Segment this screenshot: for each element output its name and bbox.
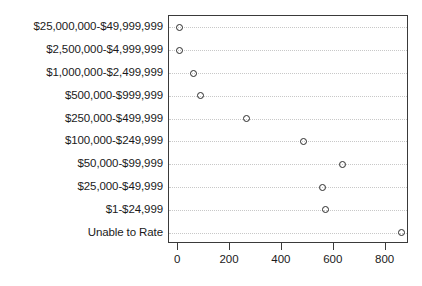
category-axis-labels: $25,000,000-$49,999,999$2,500,000-$4,999… <box>0 15 163 243</box>
x-tick-4 <box>385 243 386 250</box>
plot-area <box>168 15 408 243</box>
dot-plot-chart: $25,000,000-$49,999,999$2,500,000-$4,999… <box>0 0 422 286</box>
category-label-9: Unable to Rate <box>88 226 163 238</box>
data-point-1[interactable] <box>176 47 183 54</box>
gridline-7 <box>169 187 407 188</box>
category-label-0: $25,000,000-$49,999,999 <box>34 20 163 32</box>
category-label-8: $1-$24,999 <box>106 203 163 215</box>
data-point-4[interactable] <box>243 115 250 122</box>
x-axis: 0200400600800 <box>168 243 408 286</box>
data-point-7[interactable] <box>319 184 326 191</box>
data-point-2[interactable] <box>190 70 197 77</box>
data-point-3[interactable] <box>197 92 204 99</box>
data-point-0[interactable] <box>176 24 183 31</box>
gridline-6 <box>169 164 407 165</box>
x-tick-label-3: 600 <box>323 253 342 266</box>
x-tick-2 <box>281 243 282 250</box>
x-tick-label-0: 0 <box>174 253 180 266</box>
gridline-1 <box>169 50 407 51</box>
x-tick-label-4: 800 <box>375 253 394 266</box>
gridline-0 <box>169 27 407 28</box>
category-label-1: $2,500,000-$4,999,999 <box>46 43 163 55</box>
gridline-3 <box>169 96 407 97</box>
category-label-5: $100,000-$249,999 <box>65 134 163 146</box>
gridline-5 <box>169 141 407 142</box>
plot-inner <box>169 16 407 242</box>
category-label-3: $500,000-$999,999 <box>65 89 163 101</box>
category-label-7: $25,000-$49,999 <box>78 180 163 192</box>
x-tick-3 <box>333 243 334 250</box>
data-point-8[interactable] <box>322 206 329 213</box>
x-tick-0 <box>177 243 178 250</box>
gridline-8 <box>169 210 407 211</box>
data-point-6[interactable] <box>339 161 346 168</box>
category-label-6: $50,000-$99,999 <box>78 157 163 169</box>
gridline-4 <box>169 119 407 120</box>
category-label-4: $250,000-$499,999 <box>65 112 163 124</box>
gridline-2 <box>169 73 407 74</box>
data-point-9[interactable] <box>398 229 405 236</box>
category-label-2: $1,000,000-$2,499,999 <box>46 66 163 78</box>
gridline-9 <box>169 233 407 234</box>
x-tick-label-1: 200 <box>219 253 238 266</box>
x-tick-label-2: 400 <box>271 253 290 266</box>
x-tick-1 <box>229 243 230 250</box>
data-point-5[interactable] <box>300 138 307 145</box>
